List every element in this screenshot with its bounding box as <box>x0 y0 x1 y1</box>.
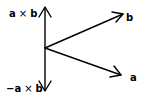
vector-b <box>45 14 123 48</box>
label-a-cross-b: a×b <box>9 8 37 19</box>
label-a: a <box>130 72 137 83</box>
cross-product-diagram: a×b −a×b b a <box>0 0 145 98</box>
label-b: b <box>126 12 133 23</box>
vector-a <box>45 48 121 75</box>
label-neg-a-cross-b: −a×b <box>6 83 43 94</box>
